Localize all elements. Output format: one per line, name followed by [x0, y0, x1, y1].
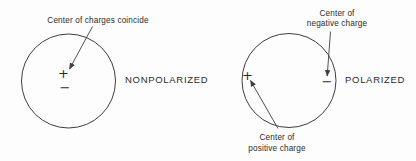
- positive-charge-leader-arrow: [251, 81, 279, 129]
- polarized-minus-symbol: −: [322, 74, 333, 89]
- charges-coincide-leader-arrow: [70, 27, 93, 70]
- polarization-diagram: Center of charges coincide + − NONPOLARI…: [0, 0, 416, 161]
- nonpolarized-minus-symbol: −: [60, 80, 71, 95]
- positive-charge-annotation-line2: positive charge: [248, 144, 306, 153]
- polarization-diagram-canvas: Center of charges coincide + − NONPOLARI…: [0, 0, 416, 161]
- polarized-figure: Center of negative charge + − Center of …: [242, 9, 405, 153]
- positive-charge-annotation-line1: Center of: [259, 133, 295, 142]
- polarized-plus-symbol: +: [242, 68, 253, 83]
- negative-charge-annotation-line1: Center of: [319, 9, 355, 18]
- negative-charge-annotation-line2: negative charge: [307, 19, 368, 28]
- nonpolarized-label: NONPOLARIZED: [125, 74, 208, 85]
- polarized-label: POLARIZED: [345, 74, 405, 85]
- nonpolarized-figure: Center of charges coincide + − NONPOLARI…: [22, 16, 209, 128]
- charges-coincide-annotation: Center of charges coincide: [47, 16, 149, 25]
